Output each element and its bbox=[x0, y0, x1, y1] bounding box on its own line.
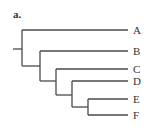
tip-label-A: A bbox=[133, 24, 141, 36]
tip-label-C: C bbox=[133, 63, 140, 75]
phylogenetic-tree: A B C D E F bbox=[0, 0, 164, 134]
tip-label-F: F bbox=[133, 109, 139, 121]
tip-label-B: B bbox=[133, 45, 140, 57]
tip-label-E: E bbox=[133, 93, 140, 105]
tip-label-D: D bbox=[133, 75, 141, 87]
